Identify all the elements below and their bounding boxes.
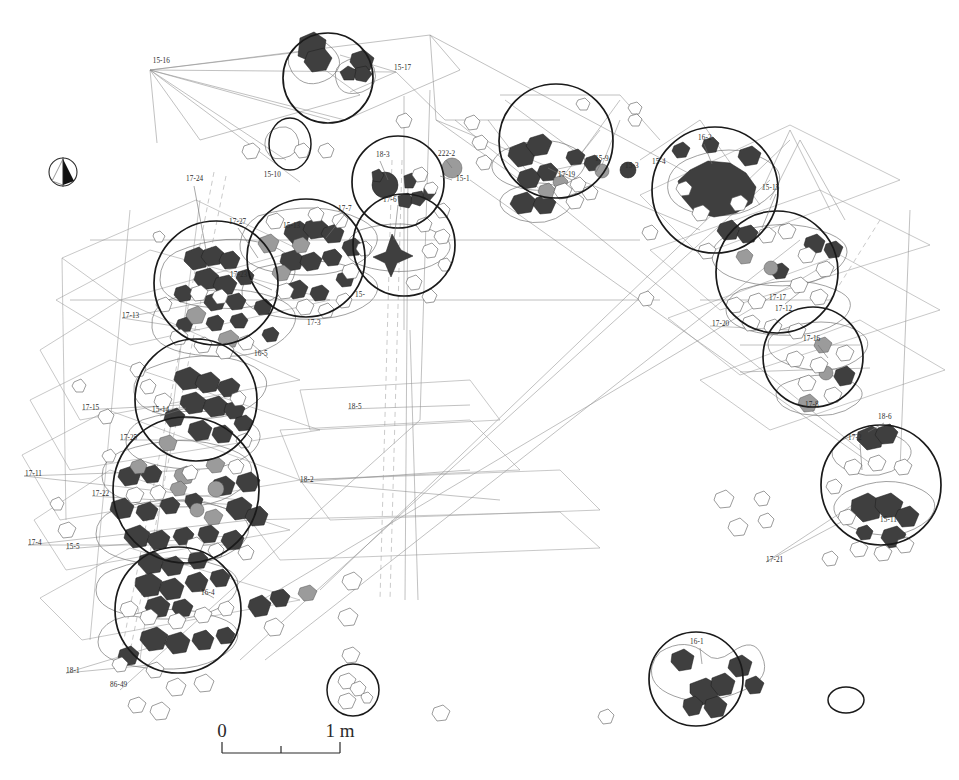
artefact-label: 16-2 — [698, 134, 712, 142]
scale-bar — [222, 742, 340, 753]
artefact-label: 15-16 — [153, 57, 171, 65]
artefact-label: 15-4 — [652, 158, 666, 166]
plan-drawing-canvas: 15-1615-1715-1018-3222-215-117-617-2417-… — [0, 0, 959, 780]
artefact-label: 15-11 — [880, 516, 897, 524]
artefact-label: 17-22 — [92, 490, 110, 498]
artefact-label: 18-2 — [300, 476, 314, 484]
artefact-label: 15-14 — [152, 406, 170, 414]
artefact-label: 17-12 — [775, 305, 793, 313]
artefact-label: 15- — [355, 291, 365, 299]
artefact-label: 18-1 — [66, 667, 80, 675]
artefact-label: 16-4 — [201, 589, 215, 597]
hearth-circle-group — [113, 33, 941, 726]
artefact-label: 17-6 — [383, 196, 397, 204]
artefact-label: 222-2 — [438, 150, 456, 158]
artefact-label: 15-3 — [625, 162, 639, 170]
small-feature-ellipse — [828, 687, 864, 713]
artefact-label: 15-1 — [456, 175, 470, 183]
artefact-label: 18-6 — [878, 413, 892, 421]
artefact-dark-group — [110, 32, 919, 718]
artefact-label: 17-3 — [307, 319, 321, 327]
artefact-label: 15-15 — [762, 184, 780, 192]
artefact-label: 15-13 — [283, 222, 301, 230]
artefact-label: 17-27 — [229, 218, 247, 226]
scale-end-label: 1 m — [325, 720, 354, 741]
artefact-label: 15-17 — [394, 64, 412, 72]
artefact-label: 15-5 — [66, 543, 80, 551]
artefact-label: 17-25 — [120, 434, 138, 442]
artefact-label: 17-13 — [122, 312, 140, 320]
scale-start-label: 0 — [217, 720, 227, 741]
artefact-concentration-outlines — [96, 40, 935, 701]
artefact-label: 86-49 — [110, 681, 128, 689]
artefact-label: 17-15 — [82, 404, 100, 412]
hearth-circle — [352, 136, 444, 228]
artefact-label: 17-23 — [230, 271, 248, 279]
artefact-label: 18-3 — [376, 151, 390, 159]
artefact-label: 17-8 — [805, 401, 819, 409]
artefact-label: 15-10 — [264, 171, 282, 179]
artefact-label: 17-16 — [803, 335, 821, 343]
artefact-label: 16-5 — [254, 350, 268, 358]
north-arrow — [49, 157, 77, 187]
scale-label-layer: 0 1 m — [217, 720, 354, 741]
artefact-label: 17-20 — [712, 320, 730, 328]
artefact-label: 17-17 — [769, 294, 787, 302]
artefact-label: 17-21 — [766, 556, 784, 564]
artefact-label: 16-1 — [690, 638, 704, 646]
artefact-label: 17-7 — [338, 205, 352, 213]
artefact-label: 15-9 — [595, 155, 609, 163]
artefact-label: 17-2 — [848, 434, 862, 442]
artefact-label: 17-4 — [28, 539, 42, 547]
site-plan-figure: 15-1615-1715-1018-3222-215-117-617-2417-… — [0, 0, 959, 780]
artefact-label: 17-11 — [25, 470, 42, 478]
artefact-label: 17-24 — [186, 175, 204, 183]
artefact-label: 18-5 — [348, 403, 362, 411]
artefact-label: 17-19 — [558, 171, 576, 179]
